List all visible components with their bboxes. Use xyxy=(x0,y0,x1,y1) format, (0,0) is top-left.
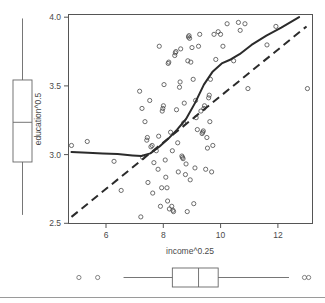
scatter-point xyxy=(158,204,162,208)
scatter-point xyxy=(207,93,211,97)
scatter-point xyxy=(246,86,250,90)
y-marginal-boxplot xyxy=(13,18,32,214)
scatter-point xyxy=(157,134,161,138)
loess-smoother-line xyxy=(71,17,299,156)
regression-line-dashed xyxy=(71,26,306,216)
x-tick-label: 12 xyxy=(273,230,283,240)
scatter-point xyxy=(143,120,147,124)
y-box-body xyxy=(13,80,32,162)
scatter-point xyxy=(179,47,183,51)
x-box-outlier xyxy=(302,275,306,279)
scatter-point xyxy=(205,135,209,139)
scatter-point xyxy=(85,139,89,143)
scatter-point xyxy=(198,32,202,36)
scatterplot-figure: 4.0 3.5 3.0 2.5 education^0.5 6 8 10 12 … xyxy=(0,0,325,303)
y-axis: 4.0 3.5 3.0 2.5 education^0.5 xyxy=(33,12,69,228)
scatter-point xyxy=(243,22,247,26)
scatter-point xyxy=(151,191,155,195)
x-tick-label: 10 xyxy=(216,230,226,240)
scatter-point xyxy=(174,108,178,112)
scatter-point xyxy=(218,32,222,36)
scatter-point xyxy=(157,44,161,48)
scatter-point xyxy=(163,158,167,162)
scatter-point xyxy=(193,166,197,170)
scatter-point xyxy=(160,186,164,190)
y-tick-label: 3.0 xyxy=(49,150,61,160)
scatter-point xyxy=(204,167,208,171)
scatter-point xyxy=(176,141,180,145)
scatter-point xyxy=(138,89,142,93)
scatter-point xyxy=(236,20,240,24)
scatter-point xyxy=(184,162,188,166)
y-tick-label: 2.5 xyxy=(49,218,61,228)
scatter-point xyxy=(196,44,200,48)
scatter-point xyxy=(265,43,269,47)
scatter-point xyxy=(119,188,123,192)
scatter-point xyxy=(238,28,242,32)
scatter-point xyxy=(216,30,220,34)
scatter-point xyxy=(170,204,174,208)
scatter-point xyxy=(212,32,216,36)
scatter-point xyxy=(221,44,225,48)
scatter-point xyxy=(190,45,194,49)
scatter-point xyxy=(146,180,150,184)
scatter-point xyxy=(177,85,181,89)
scatter-point xyxy=(192,202,196,206)
x-tick-label: 6 xyxy=(104,230,109,240)
scatter-point xyxy=(112,159,116,163)
scatter-point xyxy=(208,120,212,124)
scatter-point xyxy=(178,80,182,84)
plot-canvas: 4.0 3.5 3.0 2.5 education^0.5 6 8 10 12 … xyxy=(0,0,325,303)
scatter-point xyxy=(191,77,195,81)
scatter-point xyxy=(156,167,160,171)
scatter-point xyxy=(139,215,143,219)
x-box-body xyxy=(172,268,218,287)
x-axis: 6 8 10 12 income^0.25 xyxy=(104,224,283,257)
x-box-outlier xyxy=(77,275,81,279)
scatter-point xyxy=(188,178,192,182)
scatter-point xyxy=(162,83,166,87)
y-axis-title: education^0.5 xyxy=(33,92,43,145)
scatter-point xyxy=(205,146,209,150)
scatter-point xyxy=(185,209,189,213)
y-tick-label: 4.0 xyxy=(49,12,61,22)
scatter-point xyxy=(305,86,309,90)
x-marginal-boxplot xyxy=(77,268,311,287)
scatter-point xyxy=(176,170,180,174)
x-axis-title: income^0.25 xyxy=(166,246,214,256)
x-box-outlier xyxy=(96,275,100,279)
scatter-point xyxy=(140,106,144,110)
scatter-point xyxy=(164,175,168,179)
scatter-point xyxy=(183,172,187,176)
scatter-point xyxy=(148,98,152,102)
scatter-point xyxy=(165,199,169,203)
x-box-outlier xyxy=(307,275,311,279)
scatter-point xyxy=(165,186,169,190)
scatter-point xyxy=(161,104,165,108)
scatter-point xyxy=(145,135,149,139)
scatter-point xyxy=(210,170,214,174)
scatter-point xyxy=(211,143,215,147)
scatter-point xyxy=(170,149,174,153)
scatter-point xyxy=(214,57,218,61)
scatter-point xyxy=(195,127,199,131)
scatter-point xyxy=(274,24,278,28)
scatter-point xyxy=(152,161,156,165)
y-tick-label: 3.5 xyxy=(49,81,61,91)
scatter-point xyxy=(225,22,229,26)
scatter-point xyxy=(69,143,73,147)
scatter-point xyxy=(182,101,186,105)
x-tick-label: 8 xyxy=(161,230,166,240)
